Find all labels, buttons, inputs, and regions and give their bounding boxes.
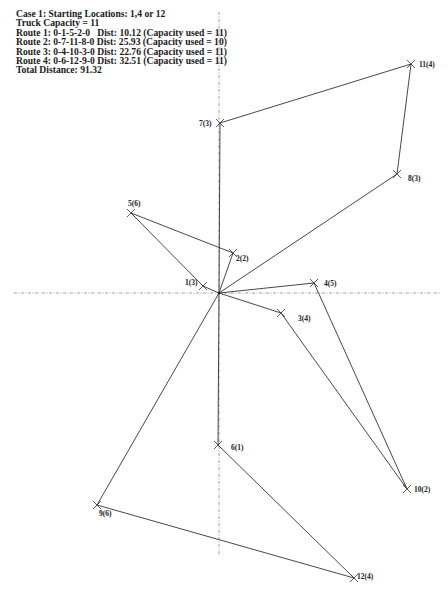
route-1-edge [219,253,233,293]
route-2-edge [219,123,220,293]
route-2-edge [220,64,411,123]
node-4: 4(5) [310,279,337,288]
route-3-edge [281,313,407,489]
node-label: 1(3) [185,278,198,287]
node-label: 6(1) [231,443,244,452]
node-label: 12(4) [357,572,374,581]
node-12: 12(4) [350,572,374,582]
route-diagram: 1(3)2(2)3(4)4(5)5(6)6(1)7(3)8(3)9(6)10(2… [0,0,448,595]
node-1: 1(3) [185,278,207,290]
node-label: 10(2) [414,485,431,494]
node-6: 6(1) [214,441,244,452]
route-1-edge [203,286,219,293]
route-4-edge [97,293,219,505]
customer-nodes: 1(3)2(2)3(4)4(5)5(6)6(1)7(3)8(3)9(6)10(2… [93,60,435,582]
cross-marker-icon [93,501,101,509]
route-3-edge [219,293,281,313]
node-label: 5(6) [128,199,141,208]
node-10: 10(2) [403,485,431,494]
node-label: 3(4) [298,314,311,323]
node-label: 4(5) [324,279,337,288]
route-2-edge [219,174,397,293]
cross-marker-icon [199,282,207,290]
route-4-edge [218,293,219,445]
route-4-edge [97,505,354,578]
cross-marker-icon [403,485,411,493]
axes [14,12,440,556]
route-edges [97,64,411,578]
node-label: 11(4) [419,60,435,69]
node-label: 8(3) [408,174,421,183]
node-label: 2(2) [236,254,249,263]
route-3-edge [219,283,314,293]
node-label: 7(3) [199,119,212,128]
depot-marker [218,292,220,294]
route-2-edge [397,64,411,174]
cross-marker-icon [277,309,285,317]
route-4-edge [218,445,354,578]
node-label: 9(6) [99,509,112,518]
route-1-edge [131,213,233,253]
cross-marker-icon [127,209,135,217]
route-1-edge [131,213,203,286]
route-3-edge [314,283,407,489]
node-3: 3(4) [277,309,311,323]
node-11: 11(4) [407,60,435,69]
node-9: 9(6) [93,501,112,518]
